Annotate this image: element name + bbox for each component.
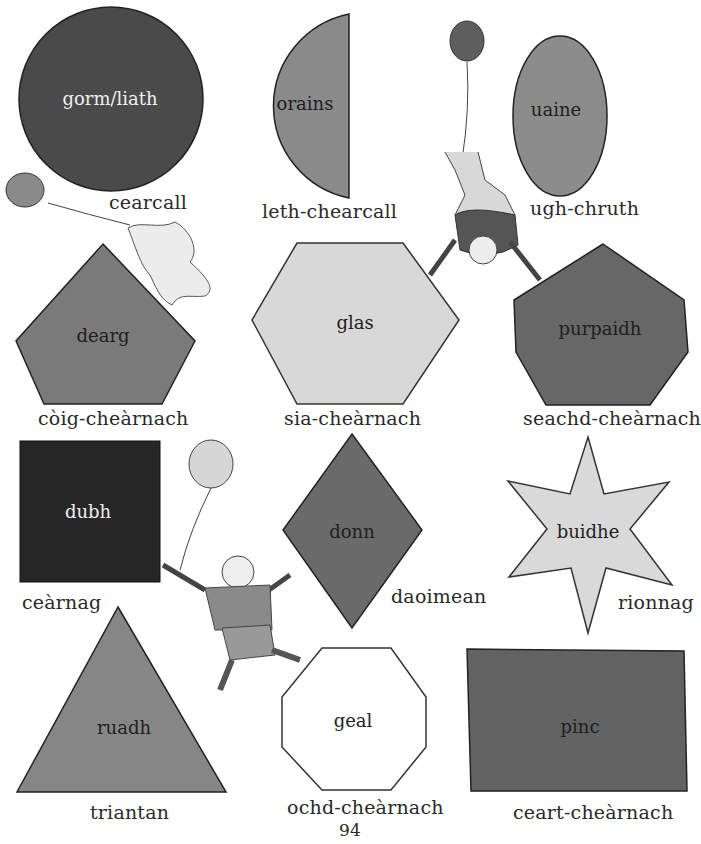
octagon-color-label: geal (334, 710, 373, 731)
pentagon-name-label: còig-cheàrnach (38, 407, 189, 429)
heptagon-color-label: purpaidh (559, 318, 642, 339)
oval-name-label: ugh-chruth (530, 197, 639, 219)
circle-name-label: cearcall (109, 191, 187, 213)
octagon-name-label: ochd-cheàrnach (287, 796, 444, 818)
triangle-name-label: triantan (90, 801, 169, 823)
star-color-label: buidhe (557, 521, 620, 542)
diamond-color-label: donn (329, 521, 375, 542)
rectangle-color-label: pinc (561, 716, 600, 737)
balloon-girl-illustration (163, 440, 300, 690)
pentagon-color-label: dearg (76, 325, 129, 346)
star-name-label: rionnag (618, 591, 694, 613)
page-number: 94 (339, 820, 361, 840)
semicircle-color-label: orains (277, 93, 334, 114)
hexagon-color-label: glas (336, 312, 373, 333)
square-name-label: ceàrnag (22, 591, 101, 613)
oval-color-label: uaine (531, 99, 581, 120)
rectangle-name-label: ceart-cheàrnach (513, 801, 673, 823)
diamond-name-label: daoimean (391, 585, 486, 607)
triangle-shape (17, 607, 226, 792)
square-color-label: dubh (65, 501, 111, 522)
hexagon-name-label: sia-cheàrnach (284, 407, 421, 429)
semicircle-name-label: leth-chearcall (262, 200, 397, 222)
circle-color-label: gorm/liath (62, 88, 157, 109)
heptagon-name-label: seachd-cheàrnach (523, 407, 701, 429)
triangle-color-label: ruadh (97, 717, 151, 738)
